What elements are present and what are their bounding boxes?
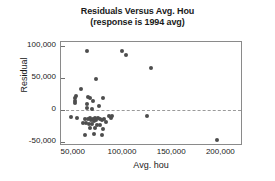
data-point [149,66,153,70]
y-tick-label: 0 [52,105,56,113]
data-point [88,126,92,130]
chart-title-block: Residuals Versus Avg. Hou (response is 1… [0,6,275,28]
data-point [69,115,73,119]
data-point [100,133,104,137]
y-tick-mark [61,142,65,143]
data-point [101,127,105,131]
data-point [93,126,97,130]
data-point [97,104,101,108]
data-point [75,116,79,120]
zero-reference-line [61,110,241,111]
scatter-chart-figure: Residuals Versus Avg. Hou (response is 1… [0,0,275,181]
y-tick-mark [61,78,65,79]
data-point [104,120,108,124]
data-point [101,96,105,100]
data-point [85,106,89,110]
x-axis-label: Avg. hou [60,160,242,170]
data-point [92,132,96,136]
data-point [73,101,77,105]
chart-subtitle: (response is 1994 avg) [0,17,275,28]
data-point [94,77,98,81]
y-tick-label: 100,000 [27,41,56,49]
data-point [124,53,128,57]
data-point [83,133,87,137]
chart-title: Residuals Versus Avg. Hou [0,6,275,17]
x-tick-label: 200,000 [190,147,250,156]
plot-area [60,41,242,145]
data-point [85,49,89,53]
y-tick-mark [61,46,65,47]
data-point [91,99,95,103]
data-point [79,87,83,91]
data-point [145,114,149,118]
data-point [109,116,113,120]
y-tick-label: 50,000 [32,73,56,81]
y-tick-label: -50,000 [29,137,56,145]
y-tick-mark [61,110,65,111]
data-point [215,138,219,142]
y-axis-label: Residual [19,45,29,105]
